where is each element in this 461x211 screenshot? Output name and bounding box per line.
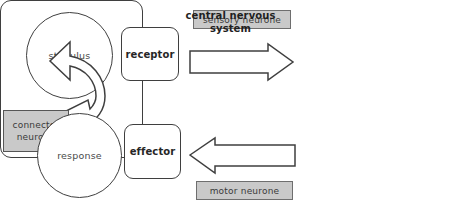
node-cns-title-line1: central nervous — [0, 9, 461, 22]
node-receptor-label: receptor — [126, 49, 175, 60]
reflex-arc-diagram: stimulus receptor sensory neurone centra… — [0, 0, 461, 211]
arrow-receptor-to-cns-icon — [188, 42, 296, 82]
node-effector: effector — [124, 124, 181, 179]
node-cns-title: central nervous system — [0, 9, 461, 35]
node-response-label: response — [57, 150, 102, 161]
label-motor-neurone: motor neurone — [196, 181, 293, 200]
node-receptor: receptor — [121, 27, 179, 81]
node-effector-label: effector — [130, 146, 176, 157]
node-response: response — [37, 113, 122, 198]
arrow-cns-to-effector-icon — [188, 136, 298, 174]
node-cns-title-line2: system — [0, 22, 461, 35]
label-motor-neurone-text: motor neurone — [210, 186, 280, 196]
